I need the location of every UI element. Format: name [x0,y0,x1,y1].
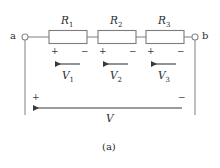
voltage-label-v3-text: V [158,69,166,81]
voltage-label-v3-sub: 3 [166,76,170,84]
figure-caption: (a) [102,142,116,152]
resistor-label-r3-text: R [158,14,166,26]
resistor-box-r2 [98,31,136,44]
polarity-plus-r2: + [99,47,107,56]
terminal-circle-b [192,34,198,40]
resistor-label-r1: R1 [61,15,73,29]
terminal-label-b: b [202,31,208,41]
polarity-plus-r3: + [147,47,155,56]
source-polarity-minus: − [178,93,186,102]
resistor-box-r3 [146,31,184,44]
resistor-label-r1-sub: 1 [69,21,73,29]
voltage-label-v3: V3 [158,70,170,84]
voltage-label-v1-sub: 1 [70,76,74,84]
voltage-label-v2: V2 [110,70,122,84]
polarity-minus-r3: − [177,47,185,56]
resistor-label-r1-text: R [61,14,69,26]
polarity-minus-r2: − [129,47,137,56]
polarity-minus-r1: − [81,47,89,56]
terminal-label-a: a [10,31,16,41]
terminal-circle-a [22,34,28,40]
resistor-label-r2: R2 [110,15,122,29]
source-polarity-plus: + [32,93,40,102]
resistor-label-r2-sub: 2 [118,21,122,29]
circuit-diagram-series-resistors: a b R1 R2 R3 + − + − + − V1 V2 V3 + − V … [0,0,220,168]
voltage-label-v2-text: V [110,69,118,81]
voltage-label-v1: V1 [62,70,74,84]
voltage-label-v1-text: V [62,69,70,81]
voltage-label-v2-sub: 2 [118,76,122,84]
resistor-label-r3: R3 [158,15,170,29]
resistor-label-r3-sub: 3 [166,21,170,29]
polarity-plus-r1: + [51,47,59,56]
resistor-label-r2-text: R [110,14,118,26]
resistor-box-r1 [49,31,87,44]
voltage-label-v-total: V [106,113,114,124]
